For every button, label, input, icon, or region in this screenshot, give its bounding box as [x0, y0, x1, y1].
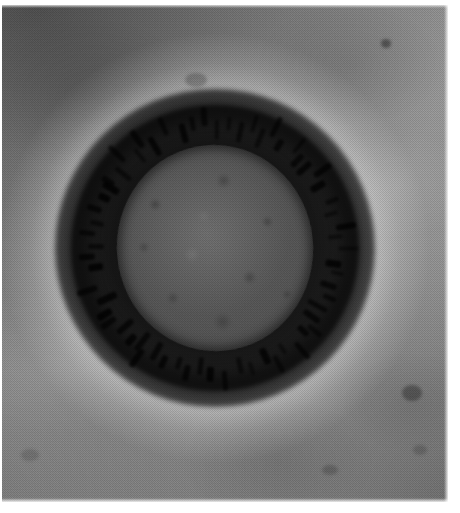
micrograph-figure: Transmission electron micrograph of a si… — [0, 0, 460, 513]
page-margin-left — [0, 0, 2, 513]
page-margin-bottom — [0, 502, 460, 513]
page-margin-top — [0, 0, 460, 5]
plate-trim-top-feather — [0, 5, 460, 8]
page-margin-right — [448, 0, 460, 513]
film-grain-overlay — [2, 5, 448, 502]
micrograph-plate — [2, 5, 448, 502]
